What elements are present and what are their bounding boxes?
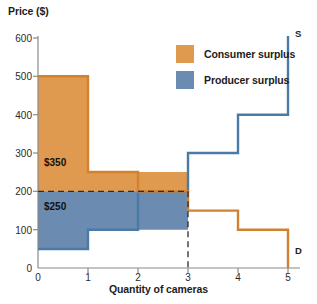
legend-item-producer-surplus: Producer surplus [176,67,295,93]
producer-surplus-region [38,191,188,249]
consumer-surplus-value: $350 [44,157,66,168]
x-axis-title: Quantity of cameras [0,283,317,295]
legend-swatch-producer-surplus [176,71,194,89]
surplus-chart: Price ($) 600 500 400 300 200 100 0 0 1 … [0,0,317,304]
producer-surplus-value: $250 [44,201,66,212]
chart-legend: Consumer surplus Producer surplus [176,41,295,93]
legend-swatch-consumer-surplus [176,45,194,63]
legend-item-consumer-surplus: Consumer surplus [176,41,295,67]
demand-curve-label: D [295,245,302,256]
consumer-surplus-region [38,76,188,191]
legend-label-producer-surplus: Producer surplus [204,74,289,86]
legend-label-consumer-surplus: Consumer surplus [204,48,295,60]
supply-curve-label: S [295,28,301,39]
